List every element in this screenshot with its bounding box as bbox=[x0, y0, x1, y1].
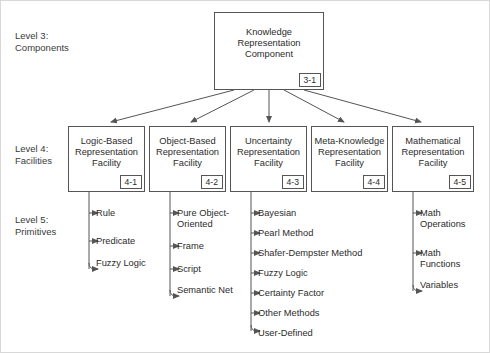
node-title: Mathematical Representation Facility bbox=[393, 127, 473, 169]
level-label-3: Level 3: Components bbox=[15, 30, 69, 53]
node-badge: 4-2 bbox=[201, 175, 223, 189]
node-title: Meta-Knowledge Representation Facility bbox=[312, 127, 387, 169]
primitive-item[interactable]: Rule bbox=[78, 208, 168, 219]
node-logic-based-representation-facility[interactable]: Logic-Based Representation Facility 4-1 bbox=[68, 126, 145, 192]
primitive-item[interactable]: User-Defined bbox=[240, 328, 370, 339]
primitive-item[interactable]: Script bbox=[159, 264, 251, 275]
primitive-item[interactable]: Bayesian bbox=[240, 208, 370, 219]
node-title: Knowledge Representation Component bbox=[215, 13, 323, 60]
primitive-list-object-based: Pure Object- Oriented Frame Script Seman… bbox=[159, 204, 251, 296]
node-object-based-representation-facility[interactable]: Object-Based Representation Facility 4-2 bbox=[149, 126, 226, 192]
node-badge: 4-1 bbox=[120, 175, 142, 189]
node-badge: 4-3 bbox=[282, 175, 304, 189]
primitive-list-mathematical: Math Operations Math Functions Variables bbox=[402, 204, 484, 291]
primitive-list-uncertainty: Bayesian Pearl Method Shafer-Dempster Me… bbox=[240, 204, 370, 339]
primitive-item[interactable]: Variables bbox=[402, 280, 484, 291]
primitive-item[interactable]: Fuzzy Logic bbox=[78, 258, 168, 269]
level-label-5: Level 5: Primitives bbox=[15, 214, 56, 237]
node-title: Logic-Based Representation Facility bbox=[69, 127, 144, 169]
node-title: Uncertainty Representation Facility bbox=[231, 127, 306, 169]
primitive-item[interactable]: Pearl Method bbox=[240, 228, 370, 239]
primitive-item[interactable]: Math Operations bbox=[402, 208, 484, 230]
node-badge: 3-1 bbox=[299, 73, 321, 87]
node-knowledge-representation-component[interactable]: Knowledge Representation Component 3-1 bbox=[214, 12, 324, 90]
primitive-item[interactable]: Certainty Factor bbox=[240, 288, 370, 299]
level-label-4: Level 4: Facilities bbox=[15, 143, 52, 166]
primitive-item[interactable]: Predicate bbox=[78, 236, 168, 247]
node-badge: 4-4 bbox=[363, 175, 385, 189]
primitive-item[interactable]: Pure Object- Oriented bbox=[159, 208, 251, 230]
primitive-item[interactable]: Other Methods bbox=[240, 308, 370, 319]
primitive-item[interactable]: Math Functions bbox=[402, 248, 484, 270]
primitive-item[interactable]: Semantic Net bbox=[159, 285, 251, 296]
primitive-list-logic-based: Rule Predicate Fuzzy Logic bbox=[78, 204, 168, 269]
node-uncertainty-representation-facility[interactable]: Uncertainty Representation Facility 4-3 bbox=[230, 126, 307, 192]
node-mathematical-representation-facility[interactable]: Mathematical Representation Facility 4-5 bbox=[392, 126, 474, 192]
primitive-item[interactable]: Shafer-Dempster Method bbox=[240, 248, 370, 259]
primitive-item[interactable]: Frame bbox=[159, 241, 251, 252]
primitive-item[interactable]: Fuzzy Logic bbox=[240, 268, 370, 279]
node-title: Object-Based Representation Facility bbox=[150, 127, 225, 169]
diagram-canvas: Level 3: Components Level 4: Facilities … bbox=[0, 0, 490, 353]
node-meta-knowledge-representation-facility[interactable]: Meta-Knowledge Representation Facility 4… bbox=[311, 126, 388, 192]
node-badge: 4-5 bbox=[449, 175, 471, 189]
